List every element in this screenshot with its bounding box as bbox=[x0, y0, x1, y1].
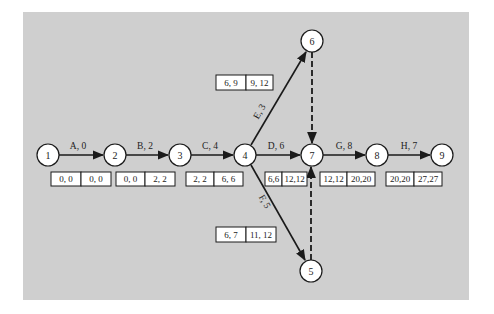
time-box-g-early: 12,12 bbox=[323, 174, 343, 184]
node-4-label: 4 bbox=[243, 150, 248, 161]
time-box-e-early: 6, 9 bbox=[224, 78, 238, 88]
node-7-label: 7 bbox=[310, 150, 315, 161]
time-box-a-late: 0, 0 bbox=[89, 174, 103, 184]
activity-label-f: F, 5 bbox=[257, 193, 273, 210]
time-box-d: 6,6 12,12 bbox=[265, 172, 307, 186]
time-box-f: 6, 7 11, 12 bbox=[216, 227, 276, 242]
network-diagram: A, 0 B, 2 C, 4 D, 6 E, 3 F, 5 G, 8 H, 7 … bbox=[0, 0, 494, 314]
activity-arrow-e bbox=[251, 52, 306, 145]
node-3-label: 3 bbox=[178, 150, 183, 161]
activity-label-h: H, 7 bbox=[401, 141, 418, 151]
time-box-f-early: 6, 7 bbox=[224, 230, 238, 240]
time-box-b: 0, 0 2, 2 bbox=[116, 172, 175, 186]
node-8: 8 bbox=[366, 144, 388, 166]
activity-label-b: B, 2 bbox=[137, 141, 153, 151]
time-box-a: 0, 0 0, 0 bbox=[51, 172, 111, 186]
time-box-g: 12,12 20,20 bbox=[320, 172, 375, 186]
activity-label-e: E, 3 bbox=[251, 102, 267, 120]
node-2: 2 bbox=[104, 144, 126, 166]
time-box-e-late: 9, 12 bbox=[251, 78, 269, 88]
node-1-label: 1 bbox=[46, 150, 51, 161]
time-box-a-early: 0, 0 bbox=[59, 174, 73, 184]
time-box-h-late: 27,27 bbox=[418, 174, 439, 184]
node-2-label: 2 bbox=[113, 150, 118, 161]
node-5: 5 bbox=[300, 260, 322, 282]
node-7: 7 bbox=[301, 144, 323, 166]
time-box-c-late: 6, 6 bbox=[222, 174, 236, 184]
node-9-label: 9 bbox=[440, 150, 445, 161]
time-box-e: 6, 9 9, 12 bbox=[216, 75, 273, 90]
time-box-h-early: 20,20 bbox=[390, 174, 411, 184]
node-6-label: 6 bbox=[310, 36, 315, 47]
node-3: 3 bbox=[169, 144, 191, 166]
time-box-c-early: 2, 2 bbox=[193, 174, 207, 184]
time-box-b-early: 0, 0 bbox=[124, 174, 138, 184]
diagram-canvas: A, 0 B, 2 C, 4 D, 6 E, 3 F, 5 G, 8 H, 7 … bbox=[0, 0, 494, 314]
node-6: 6 bbox=[301, 30, 323, 52]
node-1: 1 bbox=[37, 144, 59, 166]
node-8-label: 8 bbox=[375, 150, 380, 161]
time-box-f-late: 11, 12 bbox=[250, 230, 272, 240]
node-5-label: 5 bbox=[309, 266, 314, 277]
node-4: 4 bbox=[234, 144, 256, 166]
time-box-c: 2, 2 6, 6 bbox=[186, 172, 243, 186]
time-box-h: 20,20 27,27 bbox=[386, 172, 442, 186]
activity-label-c: C, 4 bbox=[202, 141, 218, 151]
activity-label-a: A, 0 bbox=[70, 141, 87, 151]
time-box-b-late: 2, 2 bbox=[153, 174, 167, 184]
node-9: 9 bbox=[431, 144, 453, 166]
activity-label-d: D, 6 bbox=[268, 141, 285, 151]
time-box-d-late: 12,12 bbox=[284, 174, 304, 184]
time-box-d-early: 6,6 bbox=[268, 174, 280, 184]
time-box-g-late: 20,20 bbox=[351, 174, 372, 184]
activity-label-g: G, 8 bbox=[336, 141, 353, 151]
